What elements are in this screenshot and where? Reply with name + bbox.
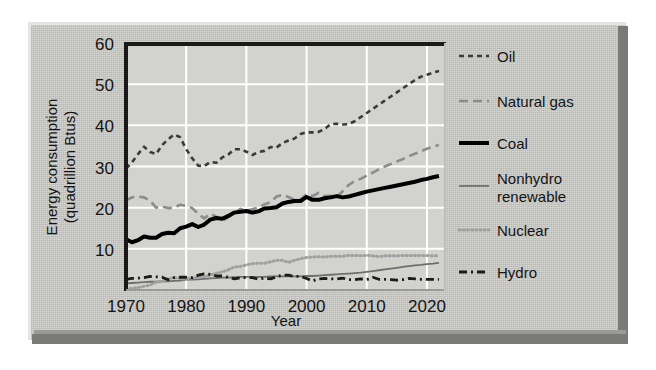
y-axis-title-line2: (quadrillion Btus) bbox=[61, 111, 78, 224]
x-tick-label: 2010 bbox=[348, 297, 386, 316]
legend-label-nonhydro-renewable[interactable]: Nonhydro bbox=[497, 170, 562, 187]
x-axis-title: Year bbox=[271, 312, 301, 329]
x-tick-label: 1970 bbox=[107, 297, 145, 316]
y-axis-title-line1: Energy consumption bbox=[43, 99, 60, 236]
legend-label-natural-gas[interactable]: Natural gas bbox=[497, 93, 574, 110]
legend-label-oil[interactable]: Oil bbox=[497, 48, 515, 65]
y-tick-label: 30 bbox=[95, 159, 114, 178]
figure-container: 102030405060 197019801990200020102020 Ye… bbox=[0, 0, 656, 370]
x-tick-label: 1990 bbox=[227, 297, 265, 316]
legend-label-nonhydro-renewable-line2[interactable]: renewable bbox=[497, 188, 566, 205]
legend-label-coal[interactable]: Coal bbox=[497, 135, 528, 152]
y-tick-label: 10 bbox=[95, 241, 114, 260]
y-axis-tick-labels: 102030405060 bbox=[95, 35, 114, 260]
x-tick-label: 2020 bbox=[408, 297, 446, 316]
y-tick-label: 60 bbox=[95, 35, 114, 54]
chart-legend: OilNatural gasCoalNonhydrorenewableNucle… bbox=[459, 48, 574, 281]
legend-label-nuclear[interactable]: Nuclear bbox=[497, 222, 549, 239]
y-tick-label: 20 bbox=[95, 200, 114, 219]
legend-label-hydro[interactable]: Hydro bbox=[497, 264, 537, 281]
y-tick-label: 40 bbox=[95, 117, 114, 136]
line-chart: 102030405060 197019801990200020102020 Ye… bbox=[0, 0, 656, 370]
x-tick-label: 1980 bbox=[167, 297, 205, 316]
y-tick-label: 50 bbox=[95, 76, 114, 95]
